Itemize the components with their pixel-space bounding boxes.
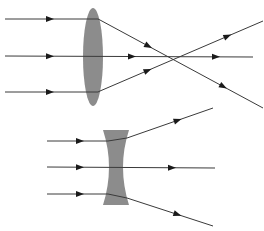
arrowhead-icon (218, 82, 228, 91)
concave-lens-rays (47, 108, 215, 226)
arrowhead-icon (223, 32, 233, 41)
diverging-lens-group (47, 108, 215, 226)
arrowhead-icon (46, 16, 54, 22)
arrowhead-icon (76, 191, 84, 197)
arrowhead-icon (76, 164, 84, 170)
convex-lens-rays (5, 16, 263, 108)
light-ray (47, 108, 213, 141)
arrowhead-icon (46, 53, 54, 59)
arrowhead-icon (128, 53, 136, 59)
arrowhead-icon (46, 89, 54, 95)
arrowhead-icon (76, 138, 84, 144)
light-ray (47, 167, 215, 168)
arrowhead-icon (143, 66, 153, 75)
arrowhead-icon (173, 116, 183, 124)
converging-lens-group (5, 8, 263, 108)
arrowhead-icon (212, 54, 220, 60)
lens-ray-diagram (0, 0, 264, 231)
arrowhead-icon (173, 210, 182, 218)
arrowhead-icon (144, 42, 154, 51)
light-ray (5, 19, 263, 108)
light-ray (47, 194, 213, 226)
arrowhead-icon (168, 165, 176, 171)
